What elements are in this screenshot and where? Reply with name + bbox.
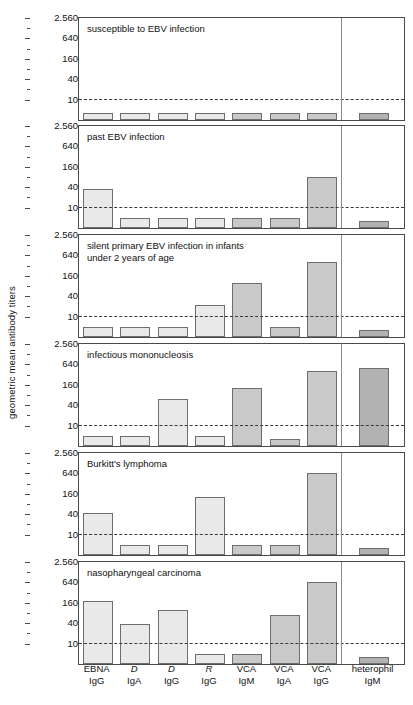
y-axis-tick-mark	[27, 613, 31, 614]
chart-bar	[195, 497, 225, 555]
x-axis-category-isotype: IgA	[265, 675, 302, 687]
x-axis-category-isotype: IgM	[340, 675, 405, 687]
y-axis-tick-label: 40	[30, 400, 78, 410]
x-axis-category: DIgA	[115, 663, 152, 687]
chart-bar	[120, 436, 150, 446]
y-axis-tick-label: 640	[30, 33, 78, 43]
x-axis-category: EBNAIgG	[78, 663, 115, 687]
y-axis-tick-label: 10	[30, 203, 78, 213]
chart-bar	[83, 436, 113, 446]
y-axis-tick-label: 10	[30, 530, 78, 540]
x-axis-category-isotype: IgA	[115, 675, 152, 687]
chart-bar	[83, 189, 113, 228]
figure-root: geometric mean antibody titers susceptib…	[0, 0, 413, 705]
chart-bar	[270, 545, 300, 555]
x-axis-category-isotype: IgG	[190, 675, 227, 687]
cutoff-line	[79, 207, 404, 208]
y-axis-tick-label: 640	[30, 359, 78, 369]
y-axis-tick-label: 40	[30, 618, 78, 628]
y-axis-tick-label: 640	[30, 468, 78, 478]
cutoff-line	[79, 316, 404, 317]
y-axis-tick-mark	[25, 562, 30, 563]
plot-area: susceptible to EBV infection	[79, 18, 404, 120]
cutoff-line	[79, 425, 404, 426]
y-axis-tick-mark	[27, 49, 31, 50]
chart-bar	[83, 601, 113, 664]
panel-divider	[341, 18, 342, 120]
y-axis-tick-mark	[25, 535, 30, 536]
y-axis-tick-label: 160	[30, 271, 78, 281]
chart-bar	[307, 473, 337, 555]
y-axis-tick-label: 10	[30, 421, 78, 431]
chart-bar	[307, 371, 337, 446]
y-axis-tick-mark	[27, 415, 31, 416]
chart-bar	[195, 218, 225, 228]
y-axis-tick-label: 160	[30, 598, 78, 608]
y-axis-tick-mark	[25, 276, 30, 277]
y-axis-tick-label: 160	[30, 489, 78, 499]
x-axis-category-antigen: EBNA	[78, 663, 115, 675]
chart-bar	[270, 327, 300, 337]
y-axis-tick-mark	[27, 306, 31, 307]
y-axis-tick-mark	[25, 426, 30, 427]
chart-bar	[158, 113, 188, 120]
x-axis-category: RIgG	[190, 663, 227, 687]
y-axis-tick-mark	[27, 633, 31, 634]
y-axis-tick-mark	[25, 79, 30, 80]
y-axis-tick-mark	[27, 245, 31, 246]
y-axis-tick-mark	[25, 473, 30, 474]
panel-title: past EBV infection	[87, 131, 165, 143]
chart-bar	[307, 582, 337, 664]
y-axis-tick-mark	[25, 317, 30, 318]
panel-title: infectious mononucleosis	[87, 349, 193, 361]
chart-bar	[307, 113, 337, 120]
cutoff-line	[79, 99, 404, 100]
y-axis-tick-label: 10	[30, 95, 78, 105]
y-axis-tick-mark	[27, 375, 31, 376]
x-axis-category-antigen: D	[115, 663, 152, 675]
chart-bar	[307, 262, 337, 337]
chart-bar	[359, 548, 389, 555]
x-axis-category-isotype: IgM	[228, 675, 265, 687]
chart-bar	[270, 113, 300, 120]
x-axis-category-isotype: IgG	[153, 675, 190, 687]
y-axis-tick-label: 2.560	[30, 557, 78, 567]
chart-bar	[158, 545, 188, 555]
y-axis-tick-label: 160	[30, 54, 78, 64]
x-axis-category-antigen: VCA	[265, 663, 302, 675]
panel-title: susceptible to EBV infection	[87, 23, 205, 35]
y-axis-tick-label: 640	[30, 250, 78, 260]
chart-bar	[232, 113, 262, 120]
chart-bar	[83, 327, 113, 337]
x-axis-category-antigen: heterophil	[340, 663, 405, 675]
y-axis-tick-mark	[27, 136, 31, 137]
y-axis-tick-label: 2.560	[30, 13, 78, 23]
chart-bar	[83, 113, 113, 120]
x-axis-category-isotype: IgG	[303, 675, 340, 687]
y-axis-tick-label: 40	[30, 291, 78, 301]
y-axis-tick-mark	[27, 484, 31, 485]
plot-area: infectious mononucleosis	[79, 344, 404, 446]
y-axis-tick-mark	[27, 28, 31, 29]
y-axis-tick-mark	[27, 354, 31, 355]
panel-divider	[341, 235, 342, 337]
chart-bar	[232, 283, 262, 337]
y-axis-tick-mark	[27, 69, 31, 70]
y-axis-tick-mark	[25, 623, 30, 624]
y-axis-tick-mark	[27, 463, 31, 464]
y-axis-tick-mark	[25, 167, 30, 168]
plot-area: nasopharyngeal carcinoma	[79, 562, 404, 664]
x-axis-category-antigen: VCA	[228, 663, 265, 675]
chart-bar	[359, 221, 389, 228]
x-axis-category-labels: EBNAIgGDIgADIgGRIgGVCAIgMVCAIgAVCAIgGhet…	[78, 663, 405, 703]
y-axis-tick-mark	[27, 197, 31, 198]
y-axis-tick-mark	[25, 146, 30, 147]
y-axis-tick-mark	[25, 235, 30, 236]
chart-bar	[195, 113, 225, 120]
chart-panel: Burkitt's lymphoma	[78, 452, 405, 556]
y-axis-tick-mark	[25, 494, 30, 495]
y-axis-tick-mark	[25, 255, 30, 256]
chart-bar	[120, 624, 150, 664]
chart-bar	[120, 218, 150, 228]
y-axis-tick-mark	[25, 344, 30, 345]
